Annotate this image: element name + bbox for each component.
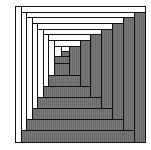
ring-6-right-strip <box>69 46 81 76</box>
ring-2-bottom-strip <box>32 108 113 120</box>
ring-3-bottom-strip <box>37 97 102 109</box>
ring-6-bottom-strip <box>54 63 70 76</box>
ring-5-bottom-strip <box>48 75 81 87</box>
ring-4-right-strip <box>90 34 102 98</box>
ring-3-right-strip <box>101 29 113 109</box>
log-cabin-figure <box>0 0 151 150</box>
ring-0-right-strip <box>134 12 146 143</box>
center-block-3 <box>54 56 70 64</box>
ring-1-bottom-strip <box>26 119 124 131</box>
ring-1-right-strip <box>123 17 135 131</box>
ring-4-bottom-strip <box>43 86 91 98</box>
ring-5-right-strip <box>80 40 91 87</box>
ring-2-right-strip <box>112 23 124 120</box>
ring-0-bottom-strip <box>21 130 135 143</box>
